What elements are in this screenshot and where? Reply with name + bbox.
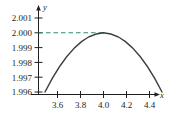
chart-screenshot: 2.001 2.000 1.999 1.998 1.997 1.996 3.6 …: [0, 0, 171, 121]
y-tick-label: 2.000: [12, 28, 33, 38]
y-tick-label: 2.001: [12, 13, 32, 23]
y-axis-label: y: [42, 2, 47, 12]
x-tick-label: 4.4: [144, 100, 156, 110]
x-tick-label: 4.2: [121, 100, 132, 110]
y-tick-label: 1.996: [12, 87, 33, 97]
x-tick-label: 4.0: [98, 100, 110, 110]
parabola-chart: 2.001 2.000 1.999 1.998 1.997 1.996 3.6 …: [0, 0, 171, 121]
y-tick-label: 1.999: [12, 43, 33, 53]
y-axis-arrow-icon: [36, 5, 41, 11]
y-tick-label: 1.997: [12, 73, 33, 83]
x-tick-label: 3.8: [75, 100, 87, 110]
x-tick-label: 3.6: [52, 100, 64, 110]
y-tick-label: 1.998: [12, 58, 33, 68]
parabola-curve: [45, 33, 162, 92]
